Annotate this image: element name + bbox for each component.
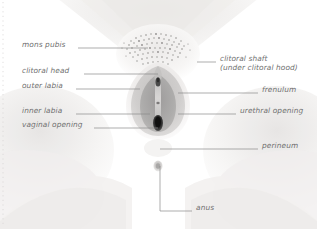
label-text: vaginal opening bbox=[22, 120, 83, 129]
anatomical-diagram: mons pubis clitoral head outer labia inn… bbox=[0, 0, 317, 229]
anus-shape bbox=[153, 161, 162, 172]
label-perineum: perineum bbox=[262, 141, 298, 150]
label-text: anus bbox=[196, 203, 214, 212]
label-text: frenulum bbox=[262, 85, 296, 94]
label-urethral-opening: urethral opening bbox=[240, 106, 303, 115]
label-vaginal-opening: vaginal opening bbox=[22, 120, 83, 129]
label-anus: anus bbox=[196, 203, 214, 212]
label-text: perineum bbox=[262, 141, 298, 150]
label-text: mons pubis bbox=[22, 40, 66, 49]
label-mons-pubis: mons pubis bbox=[22, 40, 66, 49]
perineum-shape bbox=[144, 139, 172, 157]
label-text: urethral opening bbox=[240, 106, 303, 115]
label-text-line2: (under clitoral hood) bbox=[220, 63, 298, 72]
urethral-opening-shape bbox=[156, 102, 159, 105]
label-inner-labia: inner labia bbox=[22, 106, 62, 115]
label-text: clitoral head bbox=[22, 66, 69, 75]
label-text: inner labia bbox=[22, 106, 62, 115]
label-outer-labia: outer labia bbox=[22, 81, 63, 90]
label-frenulum: frenulum bbox=[262, 85, 296, 94]
label-text: clitoral shaft bbox=[220, 54, 298, 63]
label-clitoral-head: clitoral head bbox=[22, 66, 69, 75]
vaginal-opening-shape bbox=[153, 115, 163, 131]
label-clitoral-shaft: clitoral shaft (under clitoral hood) bbox=[220, 54, 298, 72]
label-text: outer labia bbox=[22, 81, 63, 90]
